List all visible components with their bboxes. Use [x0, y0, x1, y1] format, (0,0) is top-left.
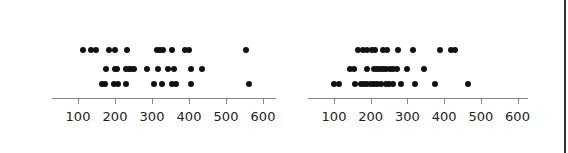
x-tick-label: 500	[214, 109, 239, 124]
data-point	[188, 66, 194, 72]
data-point	[421, 66, 427, 72]
data-point	[159, 81, 165, 87]
x-tick-label: 400	[432, 109, 457, 124]
x-axis-tick	[444, 99, 445, 104]
data-point	[173, 81, 179, 87]
data-point	[384, 47, 390, 53]
x-axis-tick	[152, 99, 153, 104]
x-tick-label: 400	[177, 109, 202, 124]
data-point	[465, 81, 471, 87]
x-axis-tick	[407, 99, 408, 104]
data-point	[390, 81, 396, 87]
x-axis-tick	[78, 99, 79, 104]
x-tick-label: 200	[358, 109, 383, 124]
x-axis-line	[52, 98, 276, 99]
x-axis-tick	[518, 99, 519, 104]
data-point	[115, 81, 121, 87]
data-point	[410, 47, 416, 53]
x-tick-label: 100	[66, 109, 91, 124]
x-tick-label: 600	[505, 109, 530, 124]
data-point	[103, 66, 109, 72]
data-point	[171, 66, 177, 72]
x-axis-tick	[334, 99, 335, 104]
data-point	[351, 66, 357, 72]
data-point	[112, 47, 118, 53]
data-point	[80, 47, 86, 53]
x-axis-tick	[263, 99, 264, 104]
data-point	[452, 47, 458, 53]
x-axis-tick	[226, 99, 227, 104]
frame-border	[564, 0, 566, 153]
x-tick-label: 600	[251, 109, 276, 124]
x-axis-line	[308, 98, 528, 99]
x-tick-label: 100	[322, 109, 347, 124]
data-point	[124, 47, 130, 53]
data-point	[398, 81, 404, 87]
data-point	[93, 47, 99, 53]
x-axis-tick	[189, 99, 190, 104]
data-point	[114, 66, 120, 72]
x-tick-label: 200	[103, 109, 128, 124]
data-point	[155, 66, 161, 72]
data-point	[151, 81, 157, 87]
x-tick-label: 500	[468, 109, 493, 124]
data-point	[243, 47, 249, 53]
x-axis-tick	[371, 99, 372, 104]
data-point	[123, 81, 129, 87]
x-axis-tick	[115, 99, 116, 104]
x-axis-tick	[481, 99, 482, 104]
data-point	[246, 81, 252, 87]
data-point	[144, 66, 150, 72]
x-tick-label: 300	[395, 109, 420, 124]
data-point	[394, 66, 400, 72]
data-point	[364, 66, 370, 72]
data-point	[102, 81, 108, 87]
data-point	[169, 47, 175, 53]
data-point	[352, 81, 358, 87]
data-point	[160, 47, 166, 53]
data-point	[372, 47, 378, 53]
data-point	[437, 47, 443, 53]
data-point	[395, 47, 401, 53]
data-point	[432, 81, 438, 87]
data-point	[412, 81, 418, 87]
data-point	[404, 66, 410, 72]
data-point	[186, 47, 192, 53]
data-point	[131, 66, 137, 72]
x-tick-label: 300	[140, 109, 165, 124]
data-point	[188, 81, 194, 87]
data-point	[336, 81, 342, 87]
data-point	[199, 66, 205, 72]
